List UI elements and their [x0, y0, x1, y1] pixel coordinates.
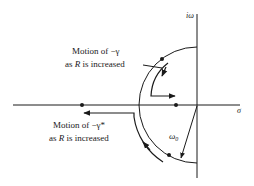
annotation-gamma-star-line2: as R is increased — [49, 133, 109, 143]
motion-gamma-path — [151, 63, 175, 96]
annotation-gamma-line1: Motion of −γ — [72, 46, 120, 56]
radius-label: ω0 — [169, 131, 178, 142]
imaginary-axis-label: iω — [186, 11, 194, 20]
annotation-gamma-line2: as R is increased — [65, 59, 125, 69]
point-real-axis-right — [174, 103, 178, 107]
point-upper-on-arc — [160, 57, 164, 61]
motion-gamma-star-direction — [143, 142, 150, 150]
diagram-canvas: iω σ ω0 Motion of −γ as R is increased M… — [0, 0, 254, 186]
point-lower-on-arc — [167, 153, 171, 157]
real-axis-label: σ — [237, 106, 242, 115]
point-real-axis-left — [80, 103, 84, 107]
annotation-gamma-star-line1: Motion of −γ* — [53, 120, 106, 130]
radius-arrow — [181, 106, 197, 158]
